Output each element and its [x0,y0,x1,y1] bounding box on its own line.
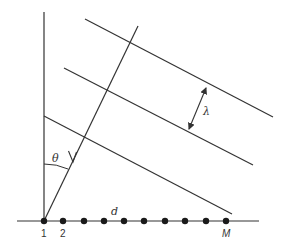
array-element [141,218,147,224]
spacing-label: d [111,205,118,218]
array-element [223,218,229,224]
wavelength-label: λ [202,105,210,118]
wavefront-3 [44,116,232,214]
array-element [81,218,87,224]
element-label-second: 2 [60,228,66,239]
element-label-first: 1 [41,228,47,239]
ray-arrowhead-icon [69,151,77,162]
array-element [162,218,168,224]
array-element [182,218,188,224]
wavefront-2 [64,68,253,165]
array-diagram: θ λ d 1 2 M [0,0,287,250]
array-element [121,218,127,224]
array-element [60,218,66,224]
element-label-last: M [222,228,231,239]
array-element [203,218,209,224]
array-element [101,218,107,224]
wavefront-1 [85,19,273,117]
theta-label: θ [52,152,59,165]
array-element [41,218,47,224]
